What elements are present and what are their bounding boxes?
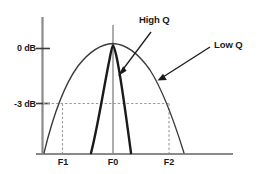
x-axis-label-f0: F0 xyxy=(102,158,124,167)
chart-plot-area xyxy=(0,0,262,174)
q-factor-bandwidth-chart: 0 dB -3 dB F1 F0 F2 High Q Low Q xyxy=(0,0,262,174)
low-q-curve xyxy=(44,44,184,154)
y-axis-label-minus-3db: -3 dB xyxy=(1,100,36,109)
x-axis-label-f2: F2 xyxy=(158,158,180,167)
high-q-curve xyxy=(91,46,131,154)
annotation-low-q: Low Q xyxy=(214,40,243,50)
y-axis-label-0db: 0 dB xyxy=(4,44,36,53)
high-q-arrow-shaft xyxy=(123,32,152,70)
x-axis-label-f1: F1 xyxy=(52,158,74,167)
low-q-arrow-shaft xyxy=(163,47,210,77)
annotation-high-q: High Q xyxy=(139,15,170,25)
